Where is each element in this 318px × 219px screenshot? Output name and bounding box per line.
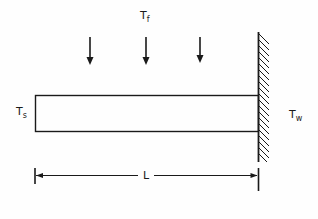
flow-arrows	[87, 37, 204, 65]
wall-temp-subscript: w	[296, 114, 303, 123]
length-symbol: L	[143, 169, 149, 182]
fluid-temp-symbol: T	[140, 9, 147, 22]
wall-temp-symbol: T	[289, 108, 296, 121]
fluid-temp-subscript: f	[147, 15, 150, 24]
tip-temp-subscript: s	[23, 111, 27, 120]
tip-temp-label: Ts	[16, 106, 27, 120]
tip-temp-symbol: T	[16, 105, 23, 118]
fin-rod	[36, 96, 259, 132]
fluid-temp-label: Tf	[140, 10, 150, 24]
wall-hatching	[259, 34, 269, 162]
fin-diagram: Tf Ts Tw L	[0, 0, 318, 219]
wall-temp-label: Tw	[289, 109, 302, 123]
length-label: L	[143, 170, 149, 181]
diagram-graphics	[0, 0, 318, 219]
